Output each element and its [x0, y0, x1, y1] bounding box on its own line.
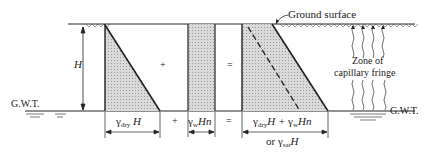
- height-label: H: [74, 59, 82, 70]
- water-table-symbol-left: [26, 114, 66, 117]
- water-pressure-diagram: [188, 24, 215, 111]
- ground-surface-label: Ground surface: [288, 9, 356, 20]
- zone-label-line1: Zone of: [352, 56, 383, 66]
- dry-pressure-diagram: [105, 24, 160, 111]
- gwt-label-left: G.W.T.: [11, 99, 40, 109]
- ground-surface-leader: [276, 15, 288, 24]
- gwt-label-right: G.W.T.: [390, 106, 419, 116]
- dry-term-label: γdry H: [116, 116, 141, 129]
- combined-pressure-diagram: [242, 24, 328, 111]
- water-term-label: γwHn: [188, 116, 211, 129]
- plus-sign-inside: +: [160, 60, 166, 70]
- equals-sign-below: =: [226, 116, 232, 126]
- zone-label-line2: capillary fringe: [334, 68, 395, 78]
- sat-term-label: or γsatH: [266, 136, 299, 149]
- equals-sign-inside: =: [227, 60, 233, 70]
- plus-sign-below: +: [172, 116, 178, 126]
- water-table-symbol-right: [350, 114, 386, 120]
- sum-term-label: γdryH + γwHn: [253, 116, 311, 129]
